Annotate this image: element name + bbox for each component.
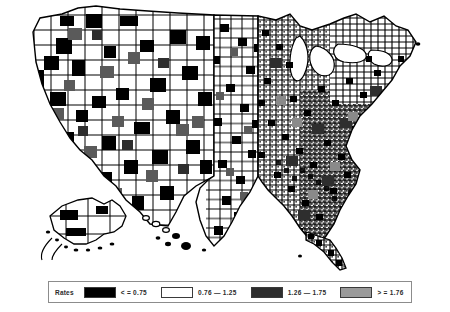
legend-title: Rates bbox=[55, 289, 74, 296]
figure-container: Rates < = 0.75 0.76 — 1.25 1.26 — 1.75 >… bbox=[0, 0, 450, 312]
map-legend: Rates < = 0.75 0.76 — 1.25 1.26 — 1.75 >… bbox=[48, 281, 412, 303]
legend-label-class-3: 1.26 — 1.75 bbox=[288, 289, 327, 296]
legend-label-class-4: > = 1.76 bbox=[377, 289, 403, 296]
legend-swatch-class-1 bbox=[84, 287, 116, 298]
choropleth-map bbox=[0, 0, 450, 272]
legend-swatch-class-4 bbox=[340, 287, 372, 298]
legend-entry-2: 0.76 — 1.25 bbox=[161, 287, 237, 298]
map-region-east bbox=[250, 5, 430, 255]
map-inset-alaska bbox=[41, 194, 134, 260]
map-region-west bbox=[25, 0, 225, 240]
legend-swatch-class-2 bbox=[161, 287, 193, 298]
legend-entry-4: > = 1.76 bbox=[340, 287, 403, 298]
us-county-map-svg bbox=[0, 0, 450, 272]
legend-entry-1: < = 0.75 bbox=[84, 287, 147, 298]
legend-label-class-1: < = 0.75 bbox=[121, 289, 147, 296]
legend-swatch-class-3 bbox=[251, 287, 283, 298]
legend-label-class-2: 0.76 — 1.25 bbox=[198, 289, 237, 296]
map-region-florida bbox=[300, 228, 356, 272]
legend-entry-3: 1.26 — 1.75 bbox=[251, 287, 327, 298]
